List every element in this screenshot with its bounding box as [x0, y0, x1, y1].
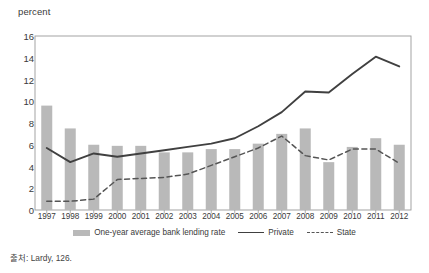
- bar-swatch-icon: [73, 230, 90, 236]
- x-axis-tick: 2007: [273, 212, 291, 221]
- y-axis-tick: 8: [14, 118, 34, 129]
- legend-item: Private: [238, 228, 293, 237]
- y-axis-tick: 16: [14, 31, 34, 42]
- source-note: 출처: Lardy, 126.: [10, 251, 72, 263]
- chart-legend: One-year average bank lending ratePrivat…: [0, 228, 429, 237]
- chart-figure: percent 0246810121416 199719981999200020…: [0, 0, 429, 273]
- bar: [182, 152, 193, 210]
- x-axis-tick: 1999: [85, 212, 103, 221]
- legend-item-label: Private: [268, 228, 293, 237]
- x-axis-tick: 2009: [320, 212, 338, 221]
- x-axis-tick: 2005: [226, 212, 244, 221]
- x-axis-tick: 2002: [155, 212, 173, 221]
- x-axis-tick: 2012: [390, 212, 408, 221]
- bar: [65, 128, 76, 210]
- dashed-line-icon: [307, 232, 333, 233]
- y-axis-tick: 12: [14, 74, 34, 85]
- x-axis-tick: 1998: [61, 212, 79, 221]
- x-axis-tick: 2004: [202, 212, 220, 221]
- bar: [229, 149, 240, 210]
- series-line-private: [47, 57, 400, 162]
- y-axis-tick: 10: [14, 96, 34, 107]
- bar: [159, 152, 170, 210]
- bar: [394, 145, 405, 210]
- y-axis-tick: 0: [14, 205, 34, 216]
- y-axis-tick: 4: [14, 161, 34, 172]
- bar: [276, 134, 287, 210]
- legend-item-label: State: [337, 228, 356, 237]
- y-axis-tick: 6: [14, 139, 34, 150]
- x-axis-tick: 2008: [296, 212, 314, 221]
- legend-item: State: [307, 228, 356, 237]
- x-axis-tick: 2001: [132, 212, 150, 221]
- x-axis-tick: 2010: [343, 212, 361, 221]
- y-axis-tick: 2: [14, 183, 34, 194]
- legend-item: One-year average bank lending rate: [73, 228, 225, 237]
- bar: [323, 162, 334, 210]
- bar: [347, 147, 358, 210]
- x-axis-tick: 2000: [108, 212, 126, 221]
- x-axis-tick: 2003: [179, 212, 197, 221]
- y-axis-tick: 14: [14, 52, 34, 63]
- bar: [300, 128, 311, 210]
- x-axis-tick: 2011: [367, 212, 385, 221]
- series-line-state: [47, 136, 400, 201]
- x-axis-tick: 2006: [249, 212, 267, 221]
- x-axis-tick: 1997: [38, 212, 56, 221]
- legend-item-label: One-year average bank lending rate: [94, 228, 225, 237]
- bar: [206, 149, 217, 210]
- solid-line-icon: [238, 232, 264, 233]
- bar: [253, 144, 264, 210]
- bar: [41, 106, 52, 210]
